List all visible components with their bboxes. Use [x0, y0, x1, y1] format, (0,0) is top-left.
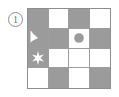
grid-cell-r2-c4[interactable]: [90, 29, 111, 49]
grid-cell-r3-c1[interactable]: [28, 49, 49, 69]
grid-cell-r2-c2[interactable]: [49, 29, 70, 49]
grid-cell-r4-c2[interactable]: [49, 68, 70, 88]
grid-cell-r4-c3[interactable]: [69, 68, 90, 88]
grid-cell-r3-c2[interactable]: [49, 49, 70, 69]
puzzle-grid: [27, 8, 111, 89]
figure-index-label: 1: [8, 12, 23, 27]
circle-gray-icon: [71, 31, 86, 46]
six-point-star-white-icon: [30, 50, 45, 65]
puzzle-figure: 1: [0, 0, 119, 97]
grid-cell-r2-c1[interactable]: [28, 29, 49, 49]
grid-cell-r1-c2[interactable]: [49, 9, 70, 29]
grid-cell-r3-c3[interactable]: [69, 49, 90, 69]
grid-cell-r4-c1[interactable]: [28, 68, 49, 88]
grid-cell-r4-c4[interactable]: [90, 68, 111, 88]
grid-cell-r1-c3[interactable]: [69, 9, 90, 29]
grid-cell-r2-c3[interactable]: [69, 29, 90, 49]
grid-cell-r1-c1[interactable]: [28, 9, 49, 29]
grid-cell-r1-c4[interactable]: [90, 9, 111, 29]
pacman-wedge-white-icon: [30, 31, 45, 46]
grid-cell-r3-c4[interactable]: [90, 49, 111, 69]
